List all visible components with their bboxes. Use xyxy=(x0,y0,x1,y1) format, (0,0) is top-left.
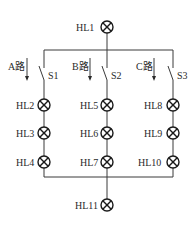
label-hl7: HL7 xyxy=(80,157,98,168)
label-hl8: HL8 xyxy=(144,100,162,111)
label-hl4: HL4 xyxy=(16,157,34,168)
lamp-hl8-icon xyxy=(167,99,179,111)
lamp-hl6-icon xyxy=(101,127,113,139)
label-hl11: HL11 xyxy=(75,200,98,211)
circuit-diagram: HL1 HL2 HL3 HL4 HL5 HL6 HL7 HL8 HL9 HL10… xyxy=(0,0,194,226)
lamp-hl4-icon xyxy=(38,156,50,168)
lamp-hl5-icon xyxy=(101,99,113,111)
label-hl6: HL6 xyxy=(80,128,98,139)
switch-s2 xyxy=(102,66,107,80)
label-s1: S1 xyxy=(48,70,59,81)
label-branch-b: B路 xyxy=(72,60,89,72)
label-hl9: HL9 xyxy=(144,128,162,139)
switch-s3 xyxy=(168,66,173,80)
lamp-hl11-icon xyxy=(101,199,113,211)
label-hl3: HL3 xyxy=(16,128,34,139)
lamp-hl3-icon xyxy=(38,127,50,139)
lamp-hl2-icon xyxy=(38,99,50,111)
label-hl2: HL2 xyxy=(16,100,34,111)
label-branch-c: C路 xyxy=(136,60,153,72)
label-hl1: HL1 xyxy=(76,22,94,33)
lamp-hl7-icon xyxy=(101,156,113,168)
lamp-hl10-icon xyxy=(167,156,179,168)
label-hl5: HL5 xyxy=(80,100,98,111)
label-hl10: HL10 xyxy=(138,157,161,168)
label-s2: S2 xyxy=(111,70,122,81)
switch-s1 xyxy=(39,66,44,80)
wires xyxy=(44,33,173,199)
lamp-hl9-icon xyxy=(167,127,179,139)
arrow-a-icon xyxy=(25,58,29,81)
label-branch-a: A路 xyxy=(8,60,25,72)
lamp-hl1-icon xyxy=(101,21,113,33)
label-s3: S3 xyxy=(177,70,188,81)
